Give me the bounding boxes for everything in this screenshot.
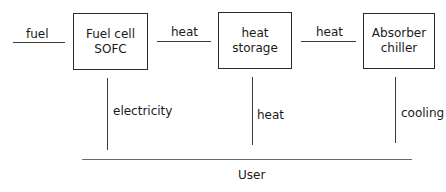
fuel-input-line xyxy=(13,42,65,43)
heat-flow-1-label: heat xyxy=(171,25,198,39)
fuel-input-label: fuel xyxy=(26,27,49,41)
absorber-chiller-label-line1: Absorber xyxy=(372,26,426,41)
heat-to-user-label: heat xyxy=(257,108,284,122)
user-sink-label: User xyxy=(238,168,265,182)
heat-flow-2-label: heat xyxy=(316,25,343,39)
absorber-chiller-node: Absorber chiller xyxy=(363,13,435,69)
fuel-cell-sofc-node: Fuel cell SOFC xyxy=(73,13,148,70)
cooling-flow-label: cooling xyxy=(401,106,444,120)
cooling-flow-line xyxy=(395,77,396,143)
absorber-chiller-label-line2: chiller xyxy=(381,41,418,56)
fuel-cell-label-line2: SOFC xyxy=(94,42,126,57)
heat-storage-node: heat storage xyxy=(218,12,292,69)
electricity-flow-label: electricity xyxy=(113,104,172,118)
fuel-cell-label-line1: Fuel cell xyxy=(86,27,135,42)
heat-storage-label: heat storage xyxy=(219,26,291,56)
user-bus-line xyxy=(82,159,412,160)
heat-to-user-line xyxy=(252,77,253,145)
heat-flow-1-line xyxy=(157,41,211,42)
heat-flow-2-line xyxy=(301,41,356,42)
electricity-flow-line xyxy=(107,78,108,150)
